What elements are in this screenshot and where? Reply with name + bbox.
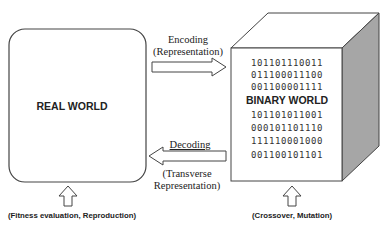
bit-row: 111110001000 [251,136,323,146]
up-arrow-icon [283,186,301,206]
bit-row: 001100001111 [251,82,323,92]
decoding-sublabel-2: Representation) [154,180,221,192]
decoding-sublabel-1: (Transverse [162,168,212,180]
bit-row: 011100011100 [251,70,323,80]
caption-left: (Fitness evaluation, Reproduction) [8,211,137,220]
bit-row: 000101101110 [251,123,323,133]
bit-row: 101101110011 [251,58,323,68]
binary-bits-top: 101101110011 011100011100 001100001111 [251,58,323,92]
bit-row: 101101011001 [251,110,323,120]
caption-right: (Crossover, Mutation) [252,211,333,220]
bit-row: 001100101101 [251,150,323,160]
encoding-sublabel: (Representation) [153,46,223,58]
real-world-label: REAL WORLD [37,100,108,112]
up-arrow-icon [59,186,77,206]
binary-world-label: BINARY WORLD [246,94,329,106]
encoding-label: Encoding [168,34,209,45]
encoding-arrow-icon [152,58,226,76]
decoding-label: Decoding [170,139,212,150]
genetic-algorithm-diagram: REAL WORLD 101101110011 011100011100 001… [0,0,387,228]
